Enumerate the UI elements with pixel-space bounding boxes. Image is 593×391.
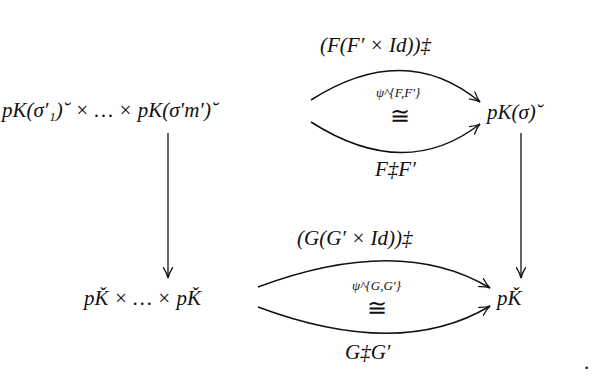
node-bottom-left: pǨ × … × pǨ bbox=[84, 288, 201, 309]
diagram-arrows bbox=[0, 0, 593, 391]
iso-symbol-bottom: ≅ bbox=[367, 296, 387, 320]
label-bottom-lower: G‡G′ bbox=[345, 342, 390, 363]
label-bottom-upper: (G(G′ × Id))‡ bbox=[297, 228, 413, 249]
label-top-iso: ψ^{F,F′} bbox=[376, 86, 420, 99]
label-bottom-iso: ψ^{G,G′} bbox=[352, 279, 401, 292]
label-top-upper: (F(F′ × Id))‡ bbox=[320, 35, 431, 56]
label-top-lower: F‡F′ bbox=[375, 159, 416, 180]
node-bottom-right: pǨ bbox=[497, 288, 522, 309]
node-top-right: pK(σ)˘ bbox=[487, 102, 543, 123]
node-top-left: pK(σ′₁)˘ × … × pK(σ′m′)˘ bbox=[2, 100, 218, 121]
iso-symbol-top: ≅ bbox=[390, 104, 410, 128]
trailing-period: . bbox=[584, 352, 589, 373]
